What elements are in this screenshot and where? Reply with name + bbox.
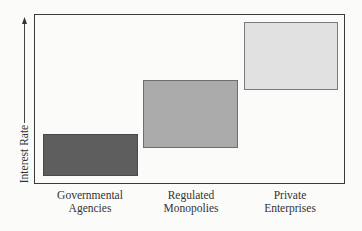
x-label-line1: Private [235, 189, 345, 202]
range-box-private-enterprises [244, 22, 338, 90]
x-label-line1: Governmental [35, 189, 145, 202]
y-axis-arrow-icon [22, 17, 27, 123]
x-label-governmental-agencies: Governmental Agencies [35, 189, 145, 215]
x-label-regulated-monopolies: Regulated Monopolies [136, 189, 246, 215]
range-box-regulated-monopolies [143, 80, 238, 148]
x-label-line2: Enterprises [235, 202, 345, 215]
x-label-line2: Monopolies [136, 202, 246, 215]
y-axis-label: Interest Rate [18, 125, 30, 183]
x-label-line2: Agencies [35, 202, 145, 215]
range-box-governmental-agencies [43, 134, 138, 176]
x-label-private-enterprises: Private Enterprises [235, 189, 345, 215]
x-label-line1: Regulated [136, 189, 246, 202]
